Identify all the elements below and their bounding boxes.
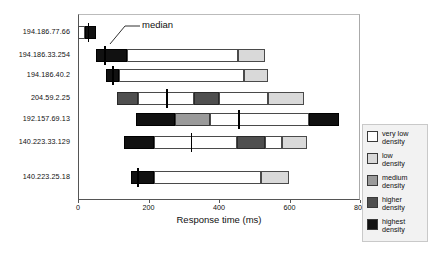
bar-segment — [175, 113, 210, 126]
y-axis-label: 140.223.33.129 — [19, 138, 70, 146]
y-axis-label: 194.186.33.254 — [19, 51, 70, 59]
legend-item[interactable]: medium density — [367, 174, 408, 190]
y-axis-category-labels: 194.186.77.66194.186.33.254194.186.40.22… — [0, 0, 74, 200]
x-tick-label: 200 — [143, 204, 155, 212]
legend-item[interactable]: highest density — [367, 218, 405, 234]
bar-segment — [78, 26, 85, 39]
legend-swatch-icon — [367, 219, 378, 230]
legend-swatch-icon — [367, 197, 378, 208]
density-legend: very low densitylow densitymedium densit… — [362, 124, 428, 242]
median-tick — [166, 89, 168, 108]
bar-segment — [194, 92, 219, 105]
bar-segment — [136, 113, 175, 126]
bar-segment — [244, 69, 269, 82]
bar-segment — [282, 136, 307, 149]
bar-segment — [124, 136, 154, 149]
legend-item[interactable]: low density — [367, 152, 405, 168]
legend-swatch-icon — [367, 175, 378, 186]
bar-segment — [210, 113, 309, 126]
bar-segment — [154, 136, 237, 149]
y-axis-label: 192.157.69.13 — [23, 115, 70, 123]
legend-label: highest density — [382, 218, 405, 234]
bar-row — [78, 113, 360, 126]
median-tick — [137, 168, 139, 187]
median-tick — [238, 110, 240, 129]
bar-row — [78, 49, 360, 62]
legend-label: very low density — [382, 130, 408, 146]
bar-segment — [127, 49, 238, 62]
legend-swatch-icon — [367, 131, 378, 142]
bar-segment — [238, 49, 264, 62]
median-tick — [88, 23, 90, 42]
bar-segment — [131, 171, 154, 184]
response-time-chart: 194.186.77.66194.186.33.254194.186.40.22… — [0, 0, 430, 254]
bar-row — [78, 26, 360, 39]
bar-segment — [219, 92, 268, 105]
y-axis-label: 204.59.2.25 — [31, 94, 70, 102]
legend-item[interactable]: very low density — [367, 130, 408, 146]
legend-item[interactable]: higher density — [367, 196, 405, 212]
bar-segment — [96, 49, 127, 62]
bar-row — [78, 92, 360, 105]
bar-segment — [268, 92, 303, 105]
bar-row — [78, 136, 360, 149]
bar-row — [78, 171, 360, 184]
median-tick — [191, 133, 193, 152]
bar-segment — [119, 69, 244, 82]
bar-segment — [309, 113, 339, 126]
plot-area — [78, 14, 360, 200]
bar-row — [78, 69, 360, 82]
legend-label: higher density — [382, 196, 405, 212]
legend-label: medium density — [382, 174, 408, 190]
bar-segment — [265, 136, 283, 149]
bar-segment — [85, 26, 96, 39]
x-tick-label: 400 — [213, 204, 225, 212]
x-tick-label: 0 — [76, 204, 80, 212]
median-annotation-label: median — [142, 19, 173, 30]
legend-label: low density — [382, 152, 405, 168]
x-tick-label: 600 — [284, 204, 296, 212]
bar-segment — [117, 92, 138, 105]
bar-segment — [261, 171, 289, 184]
legend-swatch-icon — [367, 153, 378, 164]
median-tick — [104, 46, 106, 65]
median-tick — [112, 66, 114, 85]
y-axis-label: 194.186.77.66 — [23, 28, 70, 36]
y-axis-label: 194.186.40.2 — [27, 71, 70, 79]
y-axis-label: 140.223.25.18 — [23, 173, 70, 181]
bar-segment — [237, 136, 265, 149]
x-axis-title: Response time (ms) — [78, 214, 360, 225]
bar-segment — [154, 171, 262, 184]
